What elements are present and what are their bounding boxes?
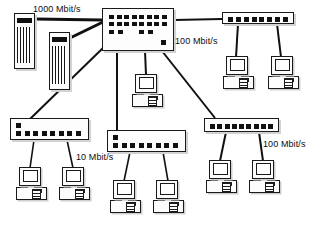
- port-indicator: [117, 22, 122, 26]
- port-indicator: [33, 131, 38, 136]
- port-indicator: [147, 22, 152, 26]
- port-indicator: [113, 143, 118, 148]
- port-indicator: [109, 30, 114, 34]
- computer-screen: [117, 183, 132, 195]
- network-link-hub-tr-to-pc1: [236, 24, 238, 57]
- computer-monitor: [113, 180, 135, 199]
- port-indicator: [50, 131, 55, 136]
- port-row: [16, 131, 81, 136]
- port-indicator: [132, 15, 137, 19]
- port-indicator: [59, 131, 64, 136]
- port-indicator: [254, 124, 259, 129]
- port-indicator: [76, 131, 81, 136]
- network-link-switch-to-hub-bottom-right: [162, 51, 215, 118]
- port-indicator: [244, 17, 249, 22]
- switch-status-led: [161, 40, 166, 45]
- server-tower-right[interactable]: [49, 32, 70, 90]
- server-vent-grille: [52, 46, 66, 84]
- port-indicator: [16, 131, 21, 136]
- port-indicator: [162, 15, 167, 19]
- workstation-center[interactable]: [132, 74, 163, 107]
- port-indicator: [139, 143, 144, 148]
- port-indicator: [117, 15, 122, 19]
- computer-monitor: [62, 167, 84, 186]
- network-link-hub-br-to-pc1: [220, 132, 226, 161]
- port-indicator: [67, 131, 72, 136]
- hub-bottom-right[interactable]: [204, 118, 279, 132]
- computer-screen: [160, 183, 175, 195]
- workstation-top-right-1[interactable]: [223, 56, 254, 89]
- port-indicator: [210, 124, 215, 129]
- power-button-icon: [156, 96, 158, 100]
- power-button-icon: [134, 202, 136, 206]
- computer-monitor: [252, 160, 274, 179]
- workstation-bottom-left-1[interactable]: [16, 167, 47, 200]
- port-row: [109, 30, 123, 34]
- workstation-bottom-right-1[interactable]: [206, 160, 237, 193]
- computer-screen: [66, 170, 81, 182]
- hub-top-right[interactable]: [222, 12, 294, 24]
- port-indicator: [109, 15, 114, 19]
- network-link-hub-bm-to-pc2: [163, 152, 168, 181]
- power-button-icon: [177, 202, 179, 206]
- port-indicator: [162, 22, 167, 26]
- port-indicator: [232, 124, 237, 129]
- hub-bottom-middle[interactable]: [107, 130, 186, 152]
- port-indicator: [139, 22, 144, 26]
- port-indicator: [246, 124, 251, 129]
- computer-monitor: [209, 160, 231, 179]
- workstation-bottom-middle-1[interactable]: [110, 180, 141, 213]
- port-indicator: [252, 17, 257, 22]
- power-button-icon: [83, 189, 85, 193]
- computer-monitor: [135, 74, 157, 93]
- workstation-bottom-left-2[interactable]: [59, 167, 90, 200]
- network-link-switch-to-hub-top-right: [174, 19, 222, 20]
- port-indicator: [236, 17, 241, 22]
- port-indicator: [130, 143, 135, 148]
- network-link-server-right-to-switch: [70, 22, 103, 38]
- computer-screen: [256, 163, 271, 175]
- computer-screen: [139, 77, 154, 89]
- computer-monitor: [156, 180, 178, 199]
- port-row: [109, 22, 167, 26]
- computer-screen: [23, 170, 38, 182]
- server-bezel: [17, 18, 32, 23]
- port-indicator: [139, 30, 144, 34]
- hub-status-led: [113, 135, 118, 140]
- workstation-top-right-2[interactable]: [268, 56, 299, 89]
- port-row: [228, 17, 288, 22]
- server-vent-grille: [17, 27, 31, 63]
- hub-status-led: [16, 123, 21, 128]
- port-indicator: [225, 124, 230, 129]
- workstation-bottom-right-2[interactable]: [249, 160, 280, 193]
- port-indicator: [283, 17, 288, 22]
- port-row: [109, 15, 167, 19]
- port-indicator: [217, 124, 222, 129]
- port-indicator: [139, 15, 144, 19]
- network-link-switch-to-pc-center: [145, 51, 146, 75]
- port-row: [210, 124, 273, 129]
- computer-monitor: [271, 56, 293, 75]
- port-indicator: [122, 143, 127, 148]
- core-switch[interactable]: [102, 8, 174, 51]
- hub-bottom-left[interactable]: [10, 118, 89, 140]
- port-indicator: [25, 131, 30, 136]
- port-indicator: [124, 22, 129, 26]
- port-row: [139, 30, 153, 34]
- computer-monitor: [19, 167, 41, 186]
- server-tower-left[interactable]: [14, 13, 35, 69]
- port-indicator: [42, 131, 47, 136]
- port-row: [113, 143, 178, 148]
- speed-label-gigabit: 1000 Mbit/s: [33, 4, 81, 14]
- workstation-bottom-middle-2[interactable]: [153, 180, 184, 213]
- power-button-icon: [273, 182, 275, 186]
- port-indicator: [259, 17, 264, 22]
- port-indicator: [261, 124, 266, 129]
- power-button-icon: [247, 78, 249, 82]
- port-indicator: [239, 124, 244, 129]
- power-button-icon: [40, 189, 42, 193]
- computer-screen: [275, 59, 290, 71]
- server-bezel: [52, 37, 67, 42]
- port-indicator: [228, 17, 233, 22]
- port-indicator: [148, 30, 153, 34]
